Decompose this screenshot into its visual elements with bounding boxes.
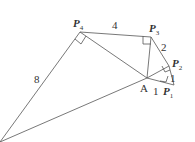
label-A: A (140, 83, 148, 94)
segment-A-P4 (80, 32, 147, 78)
label-P1: P1 (163, 86, 173, 100)
length-P4B: 8 (34, 74, 40, 85)
label-P4: P4 (73, 18, 83, 32)
length-P2P1: 1 (170, 73, 176, 84)
right-angle-P1 (160, 76, 168, 82)
label-P3: P3 (149, 23, 159, 37)
length-AP1: 1 (153, 86, 159, 97)
segment-A-P3 (147, 37, 151, 78)
length-P3P2: 2 (161, 42, 167, 53)
right-angle-P2 (162, 66, 170, 72)
label-P2: P2 (172, 58, 182, 72)
length-P4P3: 4 (112, 20, 118, 31)
geometry-diagram: P4 P3 P2 P1 A 4 2 1 1 8 (0, 0, 195, 142)
figure-lines (0, 0, 195, 142)
